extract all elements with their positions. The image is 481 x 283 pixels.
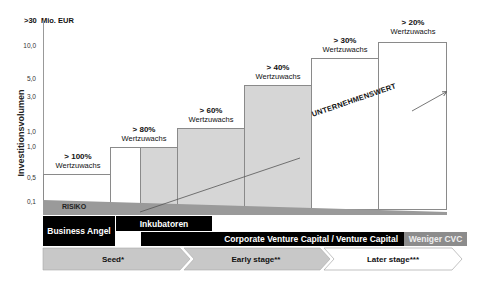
stage-chevrons <box>0 0 481 283</box>
stage-seed: Seed* <box>43 248 183 270</box>
stage-later: Later stage*** <box>332 248 454 270</box>
stage-early: Early stage** <box>190 248 322 270</box>
